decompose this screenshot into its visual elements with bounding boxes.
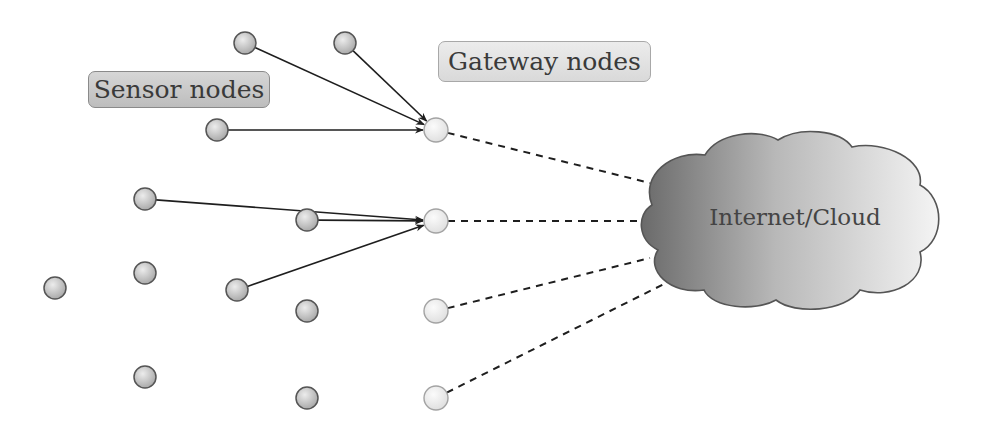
gateway-cloud-links [447, 133, 682, 393]
sensor-node [134, 366, 156, 388]
cloud-label: Internet/Cloud [700, 204, 890, 230]
sensor-node [206, 119, 228, 141]
dashed-link [447, 275, 682, 393]
sensor-node [296, 387, 318, 409]
sensor-node [334, 32, 356, 54]
sensor-node [296, 300, 318, 322]
sensor-node [234, 32, 256, 54]
sensor-node [296, 209, 318, 231]
dashed-link [448, 258, 650, 308]
sensor-node [134, 188, 156, 210]
arrow-link [247, 225, 423, 286]
sensor-node [226, 279, 248, 301]
dashed-link [448, 133, 650, 183]
sensor-nodes-label: Sensor nodes [88, 71, 270, 108]
gateway-node [424, 299, 448, 323]
arrow-link [255, 48, 424, 125]
arrow-link [318, 220, 423, 221]
sensor-node [134, 262, 156, 284]
gateway-nodes [424, 118, 448, 410]
arrow-link [353, 51, 427, 121]
gateway-node [424, 209, 448, 233]
gateway-node [424, 118, 448, 142]
gateway-nodes-label: Gateway nodes [438, 41, 651, 82]
sensor-node [44, 277, 66, 299]
arrow-link [156, 200, 423, 220]
gateway-node [424, 386, 448, 410]
